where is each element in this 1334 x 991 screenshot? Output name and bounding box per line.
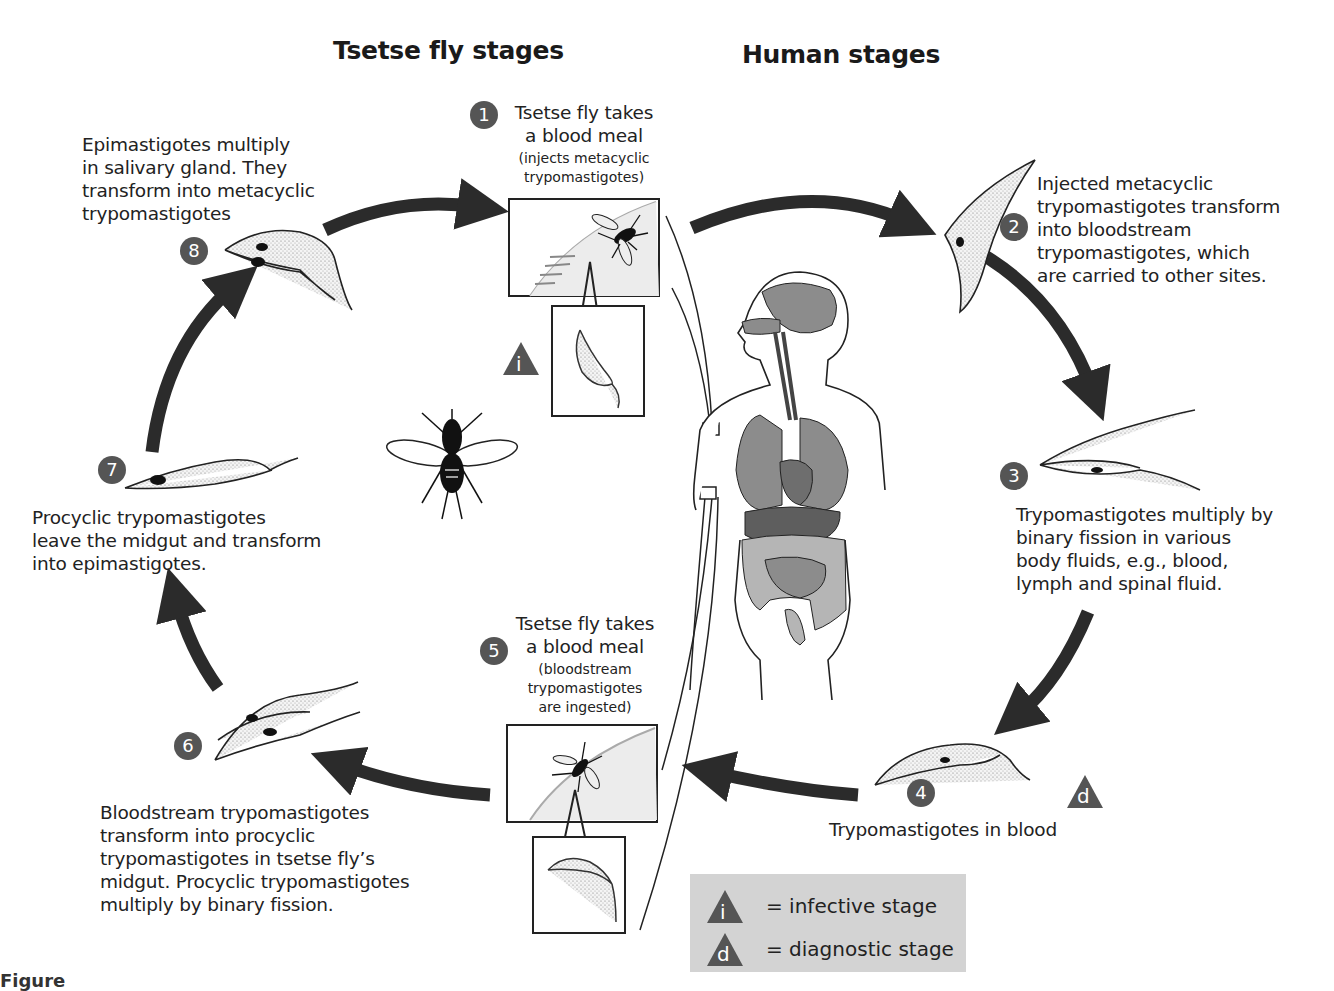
parasite-4 — [875, 744, 1030, 785]
arrow-3-to-4 — [1018, 612, 1088, 715]
legend-row-infective: i = infective stage — [706, 886, 937, 926]
infective-stage-marker: i — [502, 340, 540, 376]
heading-tsetse-fly-stages: Tsetse fly stages — [333, 36, 564, 65]
legend-label-diagnostic: = diagnostic stage — [766, 937, 954, 961]
arrow-1-to-2 — [692, 201, 908, 228]
step-1-title: Tsetse fly takes a blood meal — [504, 101, 664, 147]
step-2-text: Injected metacyclic trypomastigotes tran… — [1037, 172, 1280, 287]
arrow-8-to-1 — [325, 204, 478, 230]
step-number-1: 1 — [470, 101, 498, 129]
arrow-5-to-6 — [340, 764, 490, 795]
figure-caption: Figure — [0, 970, 65, 991]
legend-row-diagnostic: d = diagnostic stage — [706, 929, 954, 969]
parasite-6 — [215, 682, 360, 760]
step-8-text: Epimastigotes multiply in salivary gland… — [82, 133, 315, 225]
step-4-text: Trypomastigotes in blood — [829, 818, 1057, 841]
tsetse-fly-icon — [384, 409, 519, 519]
step-5-detail: (bloodstream trypomastigotes are ingeste… — [505, 660, 665, 717]
step-number-8: 8 — [180, 237, 208, 265]
step-7-text: Procyclic trypomastigotes leave the midg… — [32, 506, 321, 575]
step-number-2: 2 — [1000, 213, 1028, 241]
bite-scene-5 — [507, 725, 657, 933]
arrow-6-to-7 — [176, 598, 218, 688]
legend-label-infective: = infective stage — [766, 894, 937, 918]
step-number-6: 6 — [174, 732, 202, 760]
step-6-text: Bloodstream trypomastigotes transform in… — [100, 801, 409, 916]
human-body-figure — [694, 272, 885, 700]
arrow-4-to-5 — [712, 772, 858, 795]
step-number-4: 4 — [907, 779, 935, 807]
step-3-text: Trypomastigotes multiply by binary fissi… — [1016, 503, 1273, 595]
arrow-7-to-8 — [152, 286, 234, 452]
step-5-title: Tsetse fly takes a blood meal — [505, 612, 665, 658]
bite-scene-1 — [509, 199, 659, 416]
parasite-7 — [125, 458, 298, 489]
step-number-5: 5 — [480, 637, 508, 665]
step-number-7: 7 — [98, 456, 126, 484]
parasite-8 — [225, 230, 352, 310]
parasite-3 — [1040, 410, 1200, 490]
step-number-3: 3 — [1000, 462, 1028, 490]
step-1-detail: (injects metacyclic trypomastigotes) — [504, 149, 664, 187]
heading-human-stages: Human stages — [742, 40, 940, 69]
legend-triangle-i-icon: i — [706, 888, 744, 924]
diagnostic-stage-marker: d — [1066, 773, 1104, 809]
legend-triangle-d-icon: d — [706, 931, 744, 967]
legend-box: i = infective stage d = diagnostic stage — [690, 874, 966, 972]
